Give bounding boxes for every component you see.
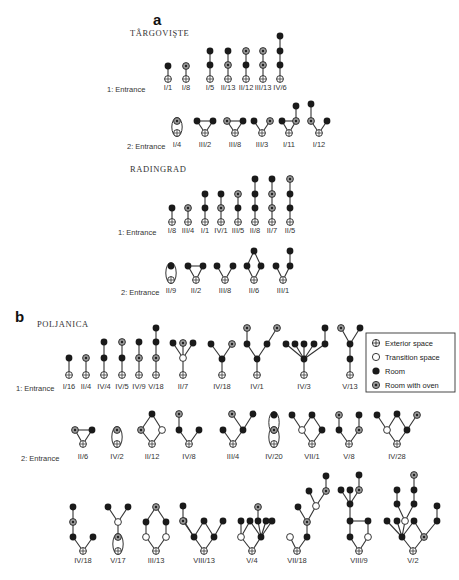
- room-icon: [153, 339, 160, 346]
- exterior-space-icon: [394, 441, 401, 448]
- room-icon: [190, 340, 197, 347]
- room-icon: [277, 48, 284, 55]
- graph-label: III/5: [232, 226, 245, 235]
- room-icon: [70, 534, 77, 541]
- exterior-space-icon: [316, 130, 323, 137]
- room-icon: [271, 412, 278, 419]
- room-with-oven-icon: [260, 48, 267, 55]
- access-graph: II/5: [285, 176, 295, 235]
- exterior-space-icon: [260, 76, 267, 83]
- access-graph: III/1: [273, 248, 294, 295]
- room-with-oven-icon: [153, 355, 160, 362]
- room-icon: [347, 341, 354, 348]
- exterior-space-icon: [153, 372, 160, 379]
- room-icon: [287, 205, 294, 212]
- graph-label: II/7: [267, 226, 277, 235]
- room-with-oven-icon: [255, 504, 262, 511]
- access-graph: II/7: [170, 340, 197, 391]
- room-icon: [244, 341, 251, 348]
- legend: Exterior space Transition space Room Roo…: [366, 333, 455, 392]
- transition-space-icon: [372, 353, 379, 360]
- graph-label: III/8: [219, 286, 232, 295]
- graph-label: III/4: [182, 226, 195, 235]
- site-title-radingrad: RADINGRAD: [130, 164, 186, 174]
- room-icon: [374, 412, 381, 419]
- room-icon: [201, 518, 208, 525]
- graph-label: I/8: [168, 226, 176, 235]
- access-graph: II/4: [81, 355, 91, 391]
- room-icon: [143, 519, 150, 526]
- access-graph: III/2: [194, 118, 217, 149]
- access-graph: I/8: [168, 205, 176, 235]
- graph-label: VIII/13: [193, 556, 215, 565]
- transition-space-icon: [299, 427, 306, 434]
- exterior-space-icon: [169, 219, 176, 226]
- exterior-space-icon: [301, 372, 308, 379]
- access-graph: III/8: [224, 118, 247, 149]
- room-with-oven-icon: [260, 62, 267, 69]
- access-graph: I/8: [182, 63, 190, 92]
- room-icon: [394, 487, 401, 494]
- row-label-poljanica-1: 1: Entrance: [16, 384, 54, 393]
- access-graph: I/12: [308, 101, 331, 149]
- access-graph: II/7: [267, 176, 277, 235]
- row-label-targoviste-1: 1: Entrance: [107, 85, 145, 94]
- room-with-oven-icon: [308, 118, 315, 125]
- access-graph: I/11: [279, 103, 300, 149]
- room-icon: [283, 341, 290, 348]
- graph-label: II/6: [249, 286, 259, 295]
- room-icon: [258, 534, 265, 541]
- room-with-oven-icon: [338, 325, 345, 332]
- graph-label: V/18: [148, 382, 163, 391]
- room-icon: [324, 118, 331, 125]
- room-with-oven-icon: [176, 411, 183, 418]
- access-graph: II/6: [244, 248, 265, 295]
- graph-label: II/2: [191, 286, 201, 295]
- room-with-oven-icon: [267, 118, 274, 125]
- graph-label: I/1: [201, 226, 209, 235]
- exterior-space-icon: [232, 130, 239, 137]
- exterior-space-icon: [271, 441, 278, 448]
- room-icon: [394, 501, 401, 508]
- room-icon: [255, 518, 262, 525]
- access-graph: III/5: [232, 191, 245, 235]
- exterior-space-icon: [347, 372, 354, 379]
- exterior-space-icon: [168, 277, 175, 284]
- room-icon: [356, 412, 363, 419]
- room-with-oven-icon: [243, 48, 250, 55]
- exterior-space-icon: [80, 548, 87, 555]
- room-icon: [168, 263, 175, 270]
- room-icon: [289, 412, 296, 419]
- room-with-oven-icon: [114, 427, 121, 434]
- room-icon: [219, 356, 226, 363]
- exterior-space-icon: [149, 441, 156, 448]
- room-with-oven-icon: [269, 205, 276, 212]
- room-icon: [264, 341, 271, 348]
- access-graph: II/6: [72, 427, 96, 461]
- room-icon: [399, 534, 406, 541]
- access-graph: II/12: [138, 411, 166, 461]
- room-icon: [287, 248, 294, 255]
- room-icon: [235, 205, 242, 212]
- room-icon: [365, 518, 372, 525]
- graph-label: IV/1: [250, 382, 263, 391]
- exterior-space-icon: [277, 76, 284, 83]
- room-icon: [169, 205, 176, 212]
- room-icon: [180, 503, 187, 510]
- graph-label: V/2: [407, 556, 418, 565]
- room-with-oven-icon: [229, 341, 236, 348]
- access-graph: I/5: [206, 48, 214, 92]
- access-graph: II/12: [239, 48, 254, 92]
- graph-label: III/1: [277, 286, 290, 295]
- room-icon: [66, 355, 73, 362]
- exterior-space-icon: [202, 219, 209, 226]
- room-icon: [250, 411, 257, 418]
- access-graph: III/13: [143, 504, 170, 565]
- transition-space-icon: [143, 534, 150, 541]
- graph-label: I/5: [206, 83, 214, 92]
- access-graph: V/2: [384, 472, 441, 565]
- graphs-layer: I/1I/8I/5II/13II/12III/13IV/6I/4III/2III…: [63, 33, 441, 565]
- room-icon: [308, 101, 315, 108]
- room-icon: [258, 263, 265, 270]
- room-with-oven-icon: [229, 411, 236, 418]
